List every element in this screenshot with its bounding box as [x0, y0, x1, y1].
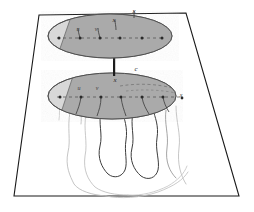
lower-label-x-right: x	[179, 92, 183, 98]
flow-line-lobe-2	[131, 110, 158, 178]
lower-dot-3	[100, 96, 103, 99]
upper-dot-3	[99, 37, 102, 40]
upper-dot-5	[141, 37, 144, 40]
flow-line-envelope-left-inner	[85, 114, 128, 195]
lower-label-c: c	[134, 65, 138, 73]
lower-dot-1	[59, 96, 62, 99]
diagram-canvas: u v x c x	[0, 0, 254, 212]
lower-dot-6	[162, 96, 165, 99]
upper-ellipse-dark-region	[56, 14, 196, 60]
lower-dot-5	[141, 96, 144, 99]
upper-dot-6	[161, 37, 164, 40]
lower-dot-2	[80, 96, 83, 99]
flow-line-right-1	[166, 110, 176, 178]
lower-ellipse-plane: u v x c x	[48, 65, 200, 122]
flow-line-lobe-1	[99, 110, 126, 177]
lower-label-u: u	[78, 85, 81, 91]
upper-label-v: v	[95, 26, 98, 32]
upper-dot-4	[119, 37, 122, 40]
upper-dot-2	[79, 37, 82, 40]
upper-dot-1	[58, 37, 61, 40]
figure-container: u v x c x	[0, 0, 254, 212]
upper-label-u: u	[77, 26, 80, 32]
lower-label-v: v	[96, 85, 99, 91]
flow-line-envelope-right	[176, 106, 186, 184]
lower-dot-4	[120, 96, 123, 99]
